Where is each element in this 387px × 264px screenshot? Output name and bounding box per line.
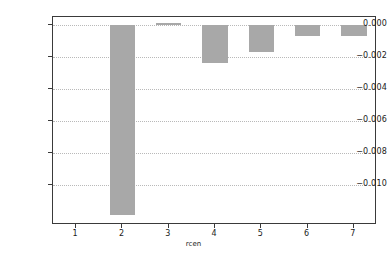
bar [295,25,320,36]
gridline [53,121,375,122]
y-axis-tick-mark [48,120,52,121]
y-axis-tick-label: 0.000 [343,20,387,28]
gridline [53,89,375,90]
y-axis-tick-label: −0.008 [343,148,387,156]
x-axis-tick-label: 3 [153,230,183,238]
x-axis-tick-mark [214,224,215,228]
y-axis-tick-mark [48,24,52,25]
x-axis-tick-mark [307,224,308,228]
y-axis-tick-mark [48,184,52,185]
chart-figure: 0.000−0.002−0.004−0.006−0.008−0.010 1234… [0,0,387,264]
x-axis-tick-label: 5 [245,230,275,238]
x-axis-tick-mark [260,224,261,228]
x-axis-tick-label: 6 [292,230,322,238]
y-axis-tick-label: −0.004 [343,84,387,92]
x-axis-tick-label: 1 [60,230,90,238]
gridline [53,153,375,154]
plot-area [52,16,376,224]
x-axis-tick-label: 7 [338,230,368,238]
x-axis-tick-label: 2 [106,230,136,238]
bar [156,23,181,25]
y-axis-tick-label: −0.002 [343,52,387,60]
x-axis-tick-mark [75,224,76,228]
bar [249,25,274,52]
y-axis-tick-label: −0.010 [343,180,387,188]
bar [202,25,227,63]
gridline [53,185,375,186]
bar [110,25,135,215]
x-axis-tick-mark [168,224,169,228]
y-axis-tick-mark [48,152,52,153]
y-axis-tick-mark [48,88,52,89]
x-axis-title: rcen [0,241,387,248]
y-axis-tick-label: −0.006 [343,116,387,124]
x-axis-tick-mark [353,224,354,228]
x-axis-tick-label: 4 [199,230,229,238]
y-axis-tick-mark [48,56,52,57]
x-axis-tick-mark [121,224,122,228]
